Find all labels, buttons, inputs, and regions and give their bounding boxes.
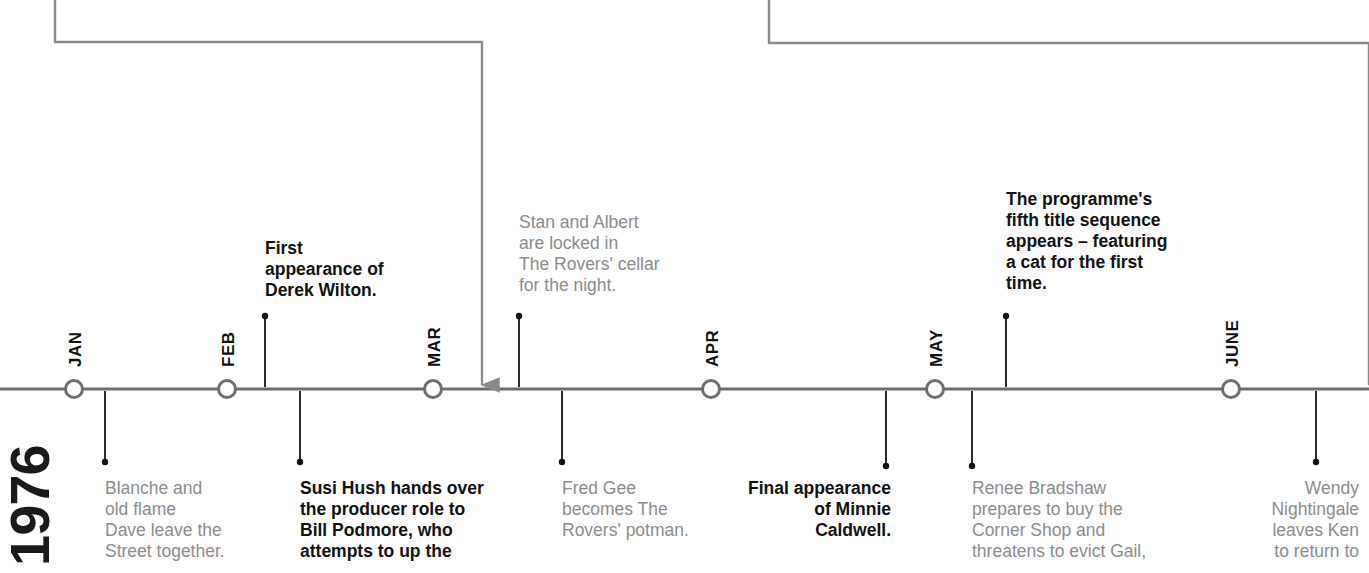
month-node-feb [219, 381, 236, 398]
event-dot-minnie-caldwell [883, 463, 889, 469]
month-node-june [1223, 381, 1240, 398]
connector-left [55, 0, 482, 385]
event-stems-below [102, 391, 1319, 469]
month-node-mar [425, 381, 442, 398]
event-text-fred-gee: Fred Gee becomes The Rovers' potman. [562, 478, 712, 541]
month-label-may: MAY [927, 329, 947, 367]
event-dot-fifth-title-sequence [1003, 313, 1009, 319]
month-label-feb: FEB [219, 332, 239, 368]
month-node-jan [66, 381, 83, 398]
event-dot-derek-wilton [262, 313, 268, 319]
event-text-derek-wilton: First appearance of Derek Wilton. [265, 238, 425, 301]
event-text-renee-bradshaw: Renee Bradshaw prepares to buy the Corne… [972, 478, 1172, 562]
event-text-blanche-dave: Blanche and old flame Dave leave the Str… [105, 478, 275, 562]
event-dot-blanche-dave [102, 459, 108, 465]
event-dot-fred-gee [559, 459, 565, 465]
month-label-jan: JAN [66, 331, 86, 367]
event-dot-stan-albert [516, 313, 522, 319]
month-label-june: JUNE [1223, 320, 1243, 367]
event-text-stan-albert: Stan and Albert are locked in The Rovers… [519, 212, 689, 296]
event-text-minnie-caldwell: Final appearance of Minnie Caldwell. [731, 478, 891, 541]
month-node-apr [703, 381, 720, 398]
year-label: 1976 [2, 445, 58, 566]
timeline-infographic: 1976 JANFEBMARAPRMAYJUNE First appearanc… [0, 0, 1369, 573]
month-node-may [927, 381, 944, 398]
event-dot-wendy-nightingale [1313, 459, 1319, 465]
month-label-apr: APR [703, 330, 723, 367]
event-dot-susi-hush [297, 459, 303, 465]
month-label-mar: MAR [425, 327, 445, 367]
event-text-susi-hush: Susi Hush hands over the producer role t… [300, 478, 500, 562]
event-text-wendy-nightingale: Wendy Nightingale leaves Ken to return t… [1219, 478, 1359, 562]
event-text-fifth-title-sequence: The programme's fifth title sequence app… [1006, 189, 1196, 294]
event-dot-renee-bradshaw [969, 463, 975, 469]
event-stems-above [262, 313, 1009, 387]
